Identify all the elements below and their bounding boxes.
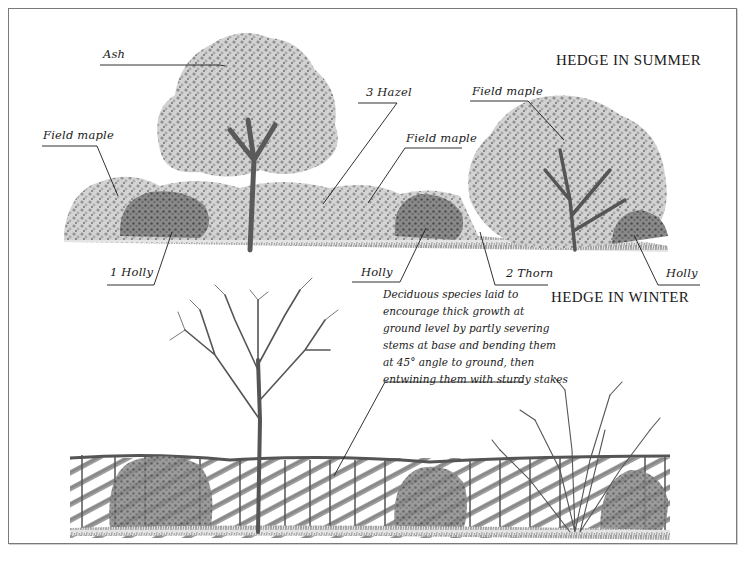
label-hazel: 3 Hazel	[366, 85, 412, 99]
label-holly-mid: Holly	[361, 265, 393, 279]
label-holly-left: 1 Holly	[110, 265, 153, 279]
note-line: ground level by partly severing	[383, 320, 593, 337]
note-line: entwining them with sturdy stakes	[383, 371, 593, 388]
note-line: at 45° angle to ground, then	[383, 354, 593, 371]
label-thorn: 2 Thorn	[506, 266, 553, 280]
summer-heading: HEDGE IN SUMMER	[556, 52, 701, 69]
winter-bush-left	[109, 456, 212, 530]
label-holly-right: Holly	[666, 266, 698, 280]
note-line: stems at base and bending them	[383, 337, 593, 354]
note-line: Deciduous species laid to	[383, 286, 593, 303]
winter-note: Deciduous species laid to encourage thic…	[383, 286, 593, 388]
label-field-maple-mid: Field maple	[406, 131, 477, 145]
label-ash: Ash	[103, 47, 125, 61]
note-line: encourage thick growth at	[383, 303, 593, 320]
label-field-maple-top-right: Field maple	[472, 84, 543, 98]
label-field-maple-left: Field maple	[43, 128, 114, 142]
